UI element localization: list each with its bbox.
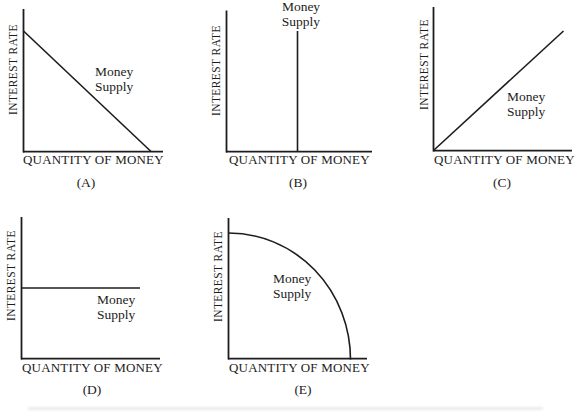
figure-five-money-supply-diagrams: INTEREST RATE QUANTITY OF MONEY Money Su… [0,0,578,414]
panel-a-curve-label-line2: Supply [95,80,133,95]
panel-d-x-axis-label: QUANTITY OF MONEY [22,360,162,376]
panel-b-curve-label-line1: Money [269,0,333,15]
panel-b-y-axis-label: INTEREST RATE [210,10,224,116]
axes-and-curves-layer [0,0,578,414]
panel-a-plot [23,9,163,153]
panel-b-x-axis-label: QUANTITY OF MONEY [229,152,369,168]
panel-b-curve-label-line2: Supply [269,15,333,30]
panel-e-x-axis-label: QUANTITY OF MONEY [229,360,369,376]
panel-d-curve-label: Money Supply [97,293,135,322]
panel-a-x-axis-label: QUANTITY OF MONEY [23,152,163,168]
panel-b-caption: (B) [268,175,328,191]
scan-artifact-smudge [28,407,543,410]
panel-b-curve-label: Money Supply [269,0,333,29]
panel-c-plot [433,7,572,152]
panel-e-caption: (E) [273,382,333,398]
panel-d-y-axis-label: INTEREST RATE [5,215,19,321]
panel-e-curve-label: Money Supply [273,272,311,301]
panel-e-y-axis-label: INTEREST RATE [212,216,226,322]
panel-a-y-axis-label: INTEREST RATE [7,9,21,115]
panel-c-caption: (C) [472,175,532,191]
panel-a-curve-label: Money Supply [95,65,133,94]
panel-a-curve-label-line1: Money [95,65,133,80]
panel-c-curve-label-line1: Money [507,90,545,105]
panel-a-caption: (A) [56,175,116,191]
panel-d-curve-label-line1: Money [97,293,135,308]
panel-d-caption: (D) [62,382,122,398]
panel-e-curve-label-line1: Money [273,272,311,287]
panel-d-plot [21,217,160,360]
panel-c-y-axis-label: INTEREST RATE [418,4,432,110]
panel-c-x-axis-label: QUANTITY OF MONEY [434,152,574,168]
panel-c-curve-label-line2: Supply [507,105,545,120]
panel-e-curve-label-line2: Supply [273,287,311,302]
panel-d-curve-label-line2: Supply [97,308,135,323]
panel-c-curve-label: Money Supply [507,90,545,119]
panel-b-plot [226,11,372,153]
